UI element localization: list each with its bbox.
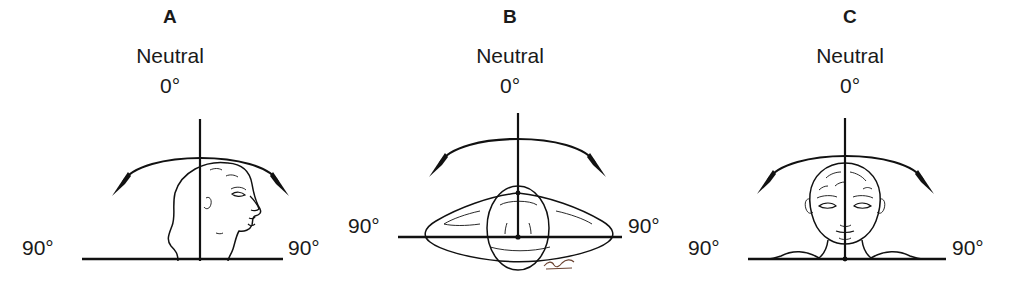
panel-b-arrowhead-right — [587, 153, 606, 177]
panel-c: C Neutral 0° 90° 90° — [680, 0, 1020, 283]
panel-a-artwork — [0, 0, 340, 283]
panel-b-apex-point — [516, 191, 521, 196]
panel-b-arrowhead-left — [429, 153, 448, 177]
panel-b-artwork — [340, 0, 680, 283]
panel-c-pivot-point — [843, 257, 848, 262]
panel-a-arrowhead-left — [112, 172, 131, 196]
artist-signature — [544, 260, 574, 269]
range-of-motion-figure: A Neutral 0° 90° 90° — [0, 0, 1020, 283]
panel-c-arrowhead-right — [915, 170, 934, 194]
panel-a-head-profile — [168, 163, 260, 261]
panel-b-pivot-point — [515, 234, 520, 239]
panel-c-arrowhead-left — [757, 170, 776, 194]
panel-b: B Neutral 0° 90° 90° — [340, 0, 680, 283]
panel-a-arrowhead-right — [270, 172, 289, 196]
panel-c-artwork — [680, 0, 1020, 283]
panel-a: A Neutral 0° 90° 90° — [0, 0, 340, 283]
